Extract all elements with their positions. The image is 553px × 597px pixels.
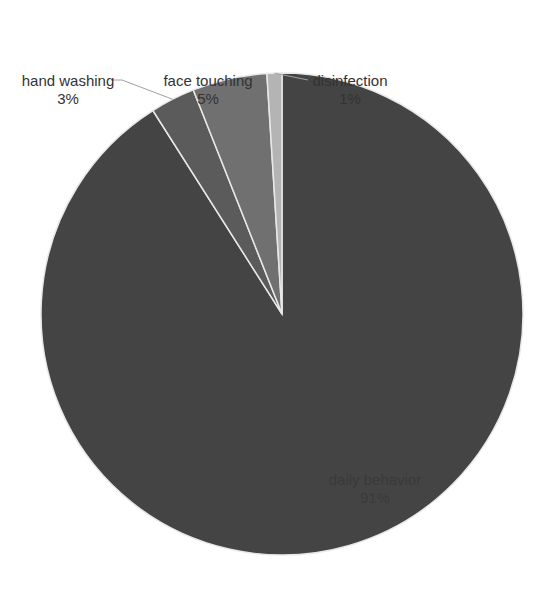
label-daily-behavior-name: daily behavior bbox=[329, 471, 422, 488]
pie-chart: hand washing 3% face touching 5% disinfe… bbox=[0, 0, 553, 597]
label-face-touching-pct: 5% bbox=[197, 90, 219, 107]
label-hand-washing-pct: 3% bbox=[57, 90, 79, 107]
label-daily-behavior-pct: 91% bbox=[360, 489, 390, 506]
label-disinfection-name: disinfection bbox=[312, 72, 387, 89]
label-hand-washing: hand washing 3% bbox=[22, 72, 115, 107]
label-hand-washing-name: hand washing bbox=[22, 72, 115, 89]
label-disinfection-pct: 1% bbox=[339, 90, 361, 107]
pie-slices bbox=[41, 73, 523, 555]
label-face-touching-name: face touching bbox=[163, 72, 252, 89]
